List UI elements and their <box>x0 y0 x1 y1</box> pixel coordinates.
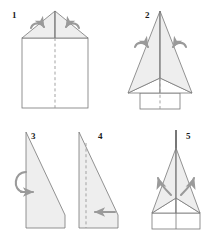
step-3-group: 3 <box>16 131 65 228</box>
step-1-left-flap <box>22 11 55 38</box>
step-4-number: 4 <box>98 131 103 141</box>
origami-instruction-diagram: 1 2 <box>0 0 216 240</box>
diagram-canvas: 1 2 <box>0 0 216 240</box>
step-3-number: 3 <box>31 131 36 141</box>
step-5-group: 5 <box>152 130 200 229</box>
step-5-number: 5 <box>186 131 191 141</box>
step-2-right-fold-arrow-icon <box>173 43 186 47</box>
step-2-group: 2 <box>128 10 192 109</box>
step-4-profile-shape <box>79 132 118 228</box>
step-3-flip-loop-icon <box>16 172 26 192</box>
step-1-right-flap <box>55 11 88 38</box>
step-1-number: 1 <box>12 10 17 20</box>
step-2-number: 2 <box>145 10 150 20</box>
step-4-group: 4 <box>79 131 118 228</box>
step-1-group: 1 <box>12 10 88 108</box>
step-3-profile-shape <box>26 132 65 228</box>
